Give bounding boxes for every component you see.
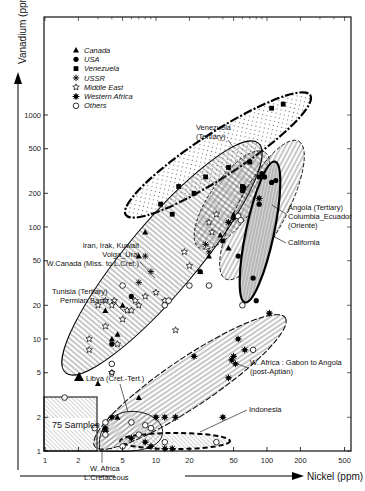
asterisk-marker (206, 249, 212, 255)
legend-label: Canada (84, 46, 110, 55)
x-tick-label: 50 (229, 456, 237, 465)
label-iran-2: Volga_Ural (102, 250, 139, 259)
filled-circle-marker (273, 178, 278, 183)
label-angola-3: (Oriente) (288, 221, 318, 230)
open-star-marker (73, 84, 79, 90)
filled-star-marker (108, 414, 115, 421)
filled-circle-marker (198, 269, 203, 274)
filled-star-marker (235, 336, 242, 343)
filled-circle-marker (109, 342, 114, 347)
open-circle-marker (103, 420, 109, 426)
open-circle-marker (148, 425, 154, 431)
label-west-africa-lcret-1: W. Africa (90, 464, 120, 473)
open-circle-marker (162, 302, 168, 308)
label-tunisia-1: Tunisia (Tertiary) (52, 287, 108, 296)
open-circle-marker (73, 103, 79, 109)
y-tick-label: 5 (37, 368, 41, 377)
filled-square-marker (176, 184, 181, 189)
filled-star-marker (148, 443, 155, 450)
y-axis-title: Vanadium (ppm) (17, 0, 28, 64)
filled-star-marker (191, 353, 198, 360)
legend-item-canada: Canada (73, 46, 110, 55)
label-west-africa-1: W. Africa : Gabon to Angola (250, 358, 343, 367)
asterisk-marker (136, 279, 142, 285)
filled-circle-marker (220, 238, 225, 243)
open-circle-marker (238, 217, 244, 223)
x-tick-label: 200 (294, 456, 307, 465)
filled-square-marker (74, 66, 79, 71)
filled-star-marker (172, 414, 179, 421)
legend-item-venezuela: Venezuela (74, 64, 120, 73)
filled-star-marker (266, 310, 273, 317)
v-ni-scatter-chart: Vanadium (ppm) 1251020501002005001000 Ni… (0, 0, 365, 491)
label-west-africa-2: (post-Aptian) (250, 367, 293, 376)
y-tick-label: 200 (28, 189, 41, 198)
filled-star-marker (161, 414, 168, 421)
x-tick-label: 20 (185, 456, 193, 465)
x-axis-arrow-icon (292, 472, 304, 480)
open-circle-marker (109, 361, 115, 367)
y-tick-label: 50 (33, 256, 41, 265)
open-circle-marker (136, 432, 142, 438)
legend-label: USA (84, 55, 99, 64)
label-california: California (288, 238, 321, 247)
open-circle-marker (120, 283, 126, 289)
filled-star-marker (102, 425, 109, 432)
label-angola-2: Columbia_Ecuador (288, 212, 352, 221)
filled-star-marker (241, 346, 248, 353)
label-iran-3: W.Canada (Miss. to L.Cret.) (46, 259, 139, 268)
filled-star-marker (73, 93, 80, 100)
asterisk-marker (73, 75, 79, 81)
filled-star-marker (225, 374, 232, 381)
filled-square-marker (269, 106, 274, 111)
legend-item-western-africa: Western Africa (73, 92, 133, 101)
y-tick-label: 1 (37, 447, 41, 456)
filled-circle-marker (241, 185, 246, 190)
legend-label: Venezuela (84, 64, 119, 73)
legend-item-others: Others (73, 101, 107, 110)
y-tick-label: 1000 (24, 111, 41, 120)
filled-square-marker (226, 165, 231, 170)
open-circle-marker (103, 432, 109, 438)
open-circle-marker (187, 283, 193, 289)
y-tick-label: 10 (33, 335, 41, 344)
filled-circle-marker (251, 275, 256, 280)
filled-square-marker (192, 191, 197, 196)
open-star-marker (172, 327, 178, 333)
y-tick-label: 20 (33, 301, 41, 310)
asterisk-marker (202, 241, 208, 247)
legend-label: Middle East (84, 83, 124, 92)
y-tick-label: 2 (37, 413, 41, 422)
filled-star-marker (161, 445, 168, 452)
filled-star-marker (169, 445, 176, 452)
x-axis-title: Nickel (ppm) (307, 471, 363, 482)
label-angola-1: Angola (Tertiary) (288, 203, 344, 212)
filled-star-marker (225, 219, 232, 226)
x-tick-label: 5 (120, 456, 124, 465)
filled-circle-marker (257, 202, 262, 207)
legend-item-ussr: USSR (73, 74, 106, 83)
asterisk-marker (142, 253, 148, 259)
legend-item-middle-east: Middle East (73, 83, 124, 92)
x-tick-label: 1 (43, 456, 47, 465)
label-tunisia-2: Permian Basin (60, 296, 109, 305)
label-indonesia: Indonesia (249, 405, 282, 414)
filled-square-marker (158, 202, 163, 207)
x-tick-label: 2 (76, 456, 80, 465)
x-tick-label: 500 (338, 456, 351, 465)
filled-circle-marker (73, 57, 78, 62)
legend-label: USSR (84, 74, 105, 83)
filled-star-marker (219, 414, 226, 421)
x-tick-label: 10 (152, 456, 160, 465)
x-tick-label: 100 (261, 456, 274, 465)
open-circle-marker (206, 283, 212, 289)
filled-square-marker (170, 212, 175, 217)
filled-star-marker (256, 195, 263, 202)
legend: CanadaUSAVenezuelaUSSRMiddle EastWestern… (73, 46, 133, 111)
legend-label: Others (84, 101, 107, 110)
label-venezuela-1: Venezuela (196, 123, 232, 132)
y-tick-label: 500 (28, 144, 41, 153)
open-circle-marker (62, 395, 68, 401)
filled-star-marker (128, 435, 135, 442)
filled-square-marker (203, 175, 208, 180)
